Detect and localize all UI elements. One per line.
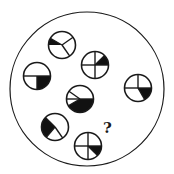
puzzle-figure <box>0 0 174 174</box>
tile-bottom <box>75 133 102 160</box>
question-mark: ? <box>103 121 112 136</box>
tile-upper-mid <box>82 52 109 79</box>
